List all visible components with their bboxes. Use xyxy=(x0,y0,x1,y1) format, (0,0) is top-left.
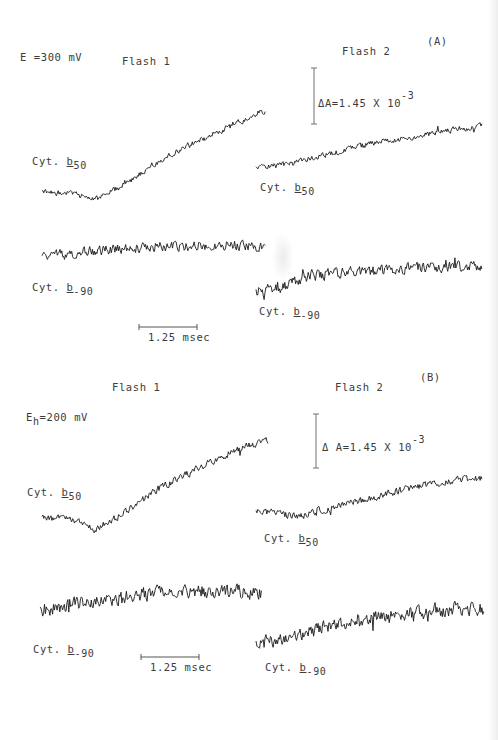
label-base: Cyt. xyxy=(265,661,293,673)
time-scale-label-a: 1.25 msec xyxy=(148,331,210,343)
label-base: Cyt. xyxy=(260,181,288,193)
label-letter: b xyxy=(300,661,307,673)
panel-label-a: (A) xyxy=(427,35,448,47)
label-letter: b xyxy=(67,281,74,293)
label-letter: b xyxy=(294,305,301,317)
label-sub: 50 xyxy=(302,186,315,197)
flash2-title-b: Flash 2 xyxy=(335,381,383,393)
trace-label-b-f1-b50: Cyt. b50 xyxy=(27,486,82,502)
label-letter: b xyxy=(62,486,69,498)
label-base: Cyt. xyxy=(32,281,60,293)
trace-a-flash-1-cyt-b-90 xyxy=(42,240,265,260)
trace-b-flash-2-cyt-b-90 xyxy=(256,601,484,648)
trace-b-flash-2-cyt-b50 xyxy=(256,476,482,519)
panel-label-b: (B) xyxy=(420,371,441,383)
label-letter: b xyxy=(68,643,75,655)
potential-base: E xyxy=(26,411,33,423)
label-letter: b xyxy=(299,532,306,544)
trace-label-a-f1-b50: Cyt. b50 xyxy=(32,155,87,171)
label-base: Cyt. xyxy=(32,155,60,167)
trace-label-b-f1-b90: Cyt. b-90 xyxy=(33,643,94,659)
time-scale-bar-a xyxy=(139,324,197,330)
absorbance-scale-label-a: ΔA=1.45 X 10-3 xyxy=(318,90,414,109)
scan-smudge xyxy=(272,232,294,282)
trace-b-flash-1-cyt-b-90 xyxy=(40,584,261,616)
trace-label-b-f2-b50: Cyt. b50 xyxy=(264,532,319,548)
label-sub: 50 xyxy=(74,160,87,171)
trace-label-a-f2-b50: Cyt. b50 xyxy=(260,181,315,197)
label-sub: -90 xyxy=(301,310,321,321)
trace-label-a-f1-b90: Cyt. b-90 xyxy=(32,281,93,297)
label-base: Cyt. xyxy=(27,486,55,498)
flash1-title-a: Flash 1 xyxy=(122,55,170,67)
absorbance-scale-label-b: Δ A=1.45 X 10-3 xyxy=(322,434,425,453)
label-base: Cyt. xyxy=(33,643,61,655)
absorbance-scale-text: ΔA=1.45 X 10 xyxy=(318,97,401,109)
label-letter: b xyxy=(67,155,74,167)
flash1-title-b: Flash 1 xyxy=(112,381,160,393)
label-sub: 50 xyxy=(69,491,82,502)
potential-label-a: E =300 mV xyxy=(20,51,82,63)
absorbance-scale-text: Δ A=1.45 X 10 xyxy=(322,441,412,453)
trace-label-b-f2-b90: Cyt. b-90 xyxy=(265,661,326,677)
label-base: Cyt. xyxy=(259,305,287,317)
time-scale-bar-b xyxy=(141,654,199,660)
absorbance-scale-bar-b xyxy=(313,414,319,468)
flash2-title-a: Flash 2 xyxy=(342,45,390,57)
potential-rest: =200 mV xyxy=(40,411,88,423)
absorbance-scale-exponent: -3 xyxy=(401,90,414,101)
label-letter: b xyxy=(295,181,302,193)
time-scale-label-b: 1.25 msec xyxy=(150,661,212,673)
absorbance-scale-bar-a xyxy=(311,68,317,124)
label-sub: -90 xyxy=(307,666,327,677)
absorbance-scale-exponent: -3 xyxy=(412,434,425,445)
traces-canvas xyxy=(0,0,498,740)
trace-a-flash-2-cyt-b50 xyxy=(256,123,482,169)
trace-label-a-f2-b90: Cyt. b-90 xyxy=(259,305,320,321)
label-base: Cyt. xyxy=(264,532,292,544)
potential-sub: h xyxy=(33,416,40,427)
scan-edge-shadow xyxy=(488,0,498,740)
potential-label-b: Eh=200 mV xyxy=(26,411,88,427)
label-sub: -90 xyxy=(75,648,95,659)
label-sub: -90 xyxy=(74,286,94,297)
label-sub: 50 xyxy=(306,537,319,548)
